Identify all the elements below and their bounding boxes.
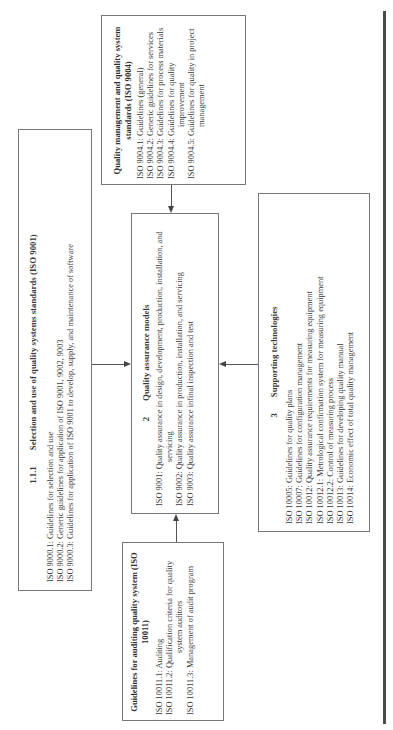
list-item: ISO 10012.2: Control of measuring proces… [326, 200, 336, 524]
list-item: ISO 10013: Guidelines for developing qua… [336, 200, 346, 524]
item-text: Generic guidelines for services [146, 32, 155, 136]
connector-selection-to-qa [92, 364, 125, 365]
item-code: ISO 9004.2: [146, 138, 155, 179]
item-text: Guidelines for quality in project manage… [187, 29, 206, 136]
item-code: ISO 10012: [305, 485, 314, 524]
selection-box-heading: 1.1.1Selection and use of quality system… [28, 136, 38, 582]
item-text: Guidelines for configuration management [295, 343, 304, 483]
list-item: ISO 10011.3: Management of audit program [186, 549, 196, 715]
box-title: Guidelines for auditing quality system (… [129, 549, 150, 715]
item-text: Quality assurance requirements for measu… [305, 291, 314, 483]
list-item: ISO 9000.1: Guidelines for selection and… [46, 136, 56, 582]
item-text: Quality assurance in production, install… [175, 272, 184, 469]
item-code: ISO 9004.1: [136, 138, 145, 179]
supporting-box-heading: 3Supporting technologies [269, 200, 279, 524]
auditing-guidelines-box: Guidelines for auditing quality system (… [122, 542, 224, 721]
item-code: ISO 9003: [186, 471, 195, 506]
item-code: ISO 9002: [175, 471, 184, 506]
item-code: ISO 10011.1: [155, 670, 164, 715]
item-code: ISO 9000.1: [46, 541, 55, 582]
item-code: ISO 10011.2: [165, 670, 174, 715]
list-item: ISO 10014: Economic effect of total qual… [346, 200, 356, 524]
list-item: ISO 9004.1: Guidelines (general) [136, 22, 146, 179]
list-item: ISO 9004.3: Guidelines for process mater… [156, 22, 166, 179]
box-title: Quality assurance models [141, 305, 151, 401]
arrowhead-right-icon [124, 361, 131, 367]
list-item: ISO 9004.4: Guidelines for quality impro… [167, 22, 187, 179]
item-text: Guidelines for quality plans [285, 390, 294, 483]
list-item: ISO 10011.2: Qualification criteria for … [165, 549, 185, 715]
list-item: ISO 9001: Quality assurance in design, d… [155, 220, 175, 506]
item-text: Quality assurance infinal inspection and… [186, 321, 195, 469]
item-text: Guidelines for application of ISO 9001 t… [66, 244, 75, 539]
item-text: Generic guidelines for application of IS… [56, 339, 65, 539]
item-code: ISO 10011.3: [186, 670, 195, 715]
list-item: ISO 10011.1: Auditing [155, 549, 165, 715]
qa-box-heading: 2Quality assurance models [141, 220, 151, 506]
item-code: ISO 9000.3: [66, 541, 75, 582]
list-item: ISO 9003: Quality assurance infinal insp… [186, 220, 196, 506]
iso9004-box: Quality management and quality system st… [101, 15, 246, 185]
item-code: ISO 10012.1: [316, 479, 325, 524]
box-title: Supporting technologies [269, 306, 279, 397]
connector-supporting-to-qa [226, 364, 258, 365]
item-text: Qualification criteria for quality syste… [165, 561, 184, 668]
item-code: ISO 10012.2: [326, 479, 335, 524]
item-code: ISO 9001: [155, 471, 164, 506]
list-item: ISO 10012: Quality assurance requirement… [305, 200, 315, 524]
item-text: Guidelines (general) [136, 67, 145, 136]
list-item: ISO 9004.2: Generic guidelines for servi… [146, 22, 156, 179]
supporting-technologies-box: 3Supporting technologies ISO 10005: Guid… [258, 193, 370, 532]
item-text: Quality assurance in design, development… [155, 231, 174, 469]
arrowhead-left-icon [219, 361, 226, 367]
box-title: Quality management and quality system st… [112, 22, 133, 179]
list-item: ISO 10005: Guidelines for quality plans [285, 200, 295, 524]
connector-iso9004-to-qa [171, 185, 172, 208]
item-text: Management of audit program [186, 566, 195, 668]
item-code: ISO 10005: [285, 485, 294, 524]
item-code: ISO 9004.5: [187, 138, 196, 179]
item-code: ISO 9000.2: [56, 541, 65, 582]
item-text: Control of measuring process [326, 378, 335, 477]
quality-assurance-models-box: 2Quality assurance models ISO 9001: Qual… [131, 213, 219, 514]
section-number: 2 [141, 417, 151, 421]
item-text: Guidelines for process materials [156, 28, 165, 136]
item-text: Guidelines for quality improvement [167, 62, 186, 136]
item-code: ISO 10007: [295, 485, 304, 524]
list-item: ISO 10007: Guidelines for configuration … [295, 200, 305, 524]
list-item: ISO 9000.2: Generic guidelines for appli… [56, 136, 66, 582]
page-rule [383, 11, 386, 724]
item-text: Economic effect of total quality managem… [346, 332, 355, 483]
item-code: ISO 10014: [346, 485, 355, 524]
box-title: Selection and use of quality systems sta… [28, 234, 38, 450]
arrowhead-down-icon [168, 206, 174, 213]
selection-standards-box: 1.1.1Selection and use of quality system… [18, 129, 92, 591]
item-code: ISO 10013: [336, 485, 345, 524]
list-item: ISO 9000.3: Guidelines for application o… [66, 136, 76, 582]
connector-auditing-to-qa [176, 521, 177, 542]
item-text: Metrological confirmation system for mea… [316, 277, 325, 477]
item-text: Guidelines for developing quality manual [336, 343, 345, 483]
list-item: ISO 9002: Quality assurance in productio… [175, 220, 185, 506]
section-number: 1.1.1 [28, 466, 38, 484]
item-text: Guidelines for selection and use [46, 432, 55, 539]
list-item: ISO 10012.1: Metrological confirmation s… [316, 200, 326, 524]
section-number: 3 [269, 413, 279, 417]
arrowhead-up-icon [173, 514, 179, 521]
item-code: ISO 9004.4: [167, 138, 176, 179]
item-text: Auditing [155, 639, 164, 669]
item-code: ISO 9004.3: [156, 138, 165, 179]
list-item: ISO 9004.5: Guidelines for quality in pr… [187, 22, 207, 179]
